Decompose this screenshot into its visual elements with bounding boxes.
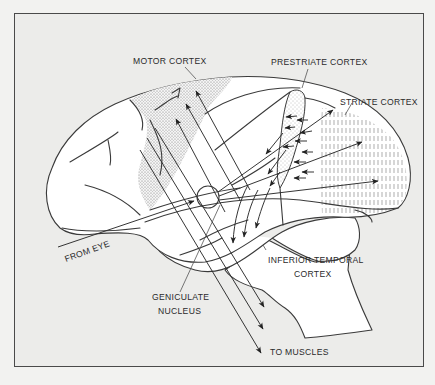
striate-cortex-region <box>320 108 407 215</box>
brain-diagram: MOTOR CORTEX PRESTRIATE CORTEX STRIATE C… <box>0 0 435 385</box>
prestriate-cortex-label: PRESTRIATE CORTEX <box>271 57 367 67</box>
geniculate-nucleus-label-line1: GENICULATE <box>152 292 209 302</box>
inferior-temporal-cortex-label-line1: INFERIOR TEMPORAL <box>268 255 364 265</box>
inferior-temporal-cortex-label-line2: CORTEX <box>294 269 331 279</box>
geniculate-nucleus-label-line2: NUCLEUS <box>158 306 201 316</box>
striate-cortex-label: STRIATE CORTEX <box>340 97 418 107</box>
motor-cortex-label: MOTOR CORTEX <box>133 56 206 66</box>
to-muscles-label: TO MUSCLES <box>270 347 329 357</box>
from-eye-label: FROM EYE <box>63 238 111 264</box>
